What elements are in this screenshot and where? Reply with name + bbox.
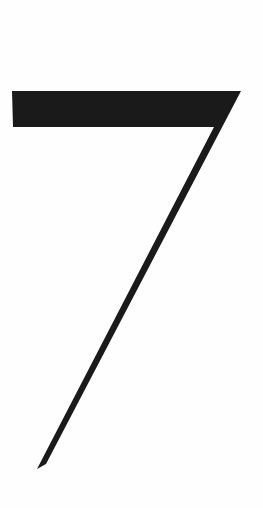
glyph-canvas: 7 (0, 0, 263, 508)
digit-seven-shape (12, 91, 241, 469)
digit-seven-glyph: 7 (0, 0, 263, 508)
